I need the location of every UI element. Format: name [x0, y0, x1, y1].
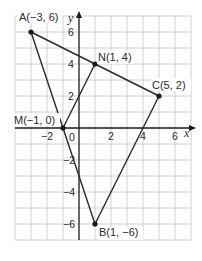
- y-tick-label: −4: [63, 186, 75, 198]
- point-label-M: M(−1, 0): [14, 114, 55, 126]
- y-axis-label: y: [67, 11, 74, 25]
- y-axis-arrow-icon: [76, 11, 82, 18]
- x-axis-label: x: [183, 126, 190, 140]
- y-tick-label: 6: [68, 26, 74, 38]
- point-N: [92, 61, 97, 66]
- y-tick-label: −6: [63, 218, 75, 230]
- point-label-B: B(1, −6): [99, 226, 138, 238]
- point-label-N: N(1, 4): [98, 51, 132, 63]
- point-B: [92, 221, 97, 226]
- coordinate-plane-diagram: x y 0 −2 2 4 6 6 4 2 −2 −4 −6 A(−3, 6) B…: [0, 0, 202, 261]
- point-A: [28, 29, 33, 34]
- point-label-A: A(−3, 6): [19, 11, 58, 23]
- x-tick-label: −2: [41, 130, 53, 142]
- y-tick-label: 2: [68, 90, 74, 102]
- x-axis-arrow-icon: [189, 125, 196, 131]
- x-tick-label: 2: [108, 130, 114, 142]
- y-tick-label: 4: [68, 58, 74, 70]
- point-C: [156, 93, 161, 98]
- x-tick-label: 6: [172, 130, 178, 142]
- point-M: [60, 125, 65, 130]
- point-label-C: C(5, 2): [152, 79, 186, 91]
- origin-label: 0: [69, 131, 75, 143]
